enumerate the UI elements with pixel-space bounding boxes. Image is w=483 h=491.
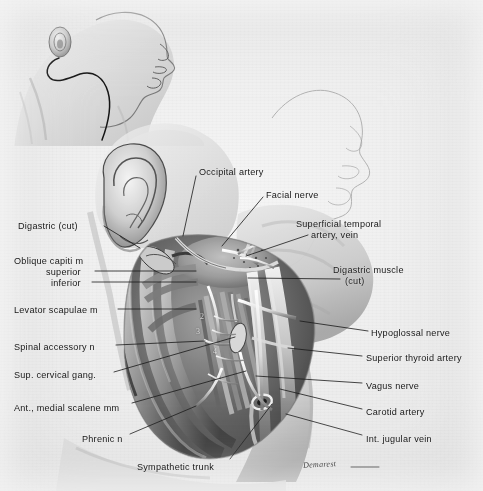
label-digastric-muscle: Digastric muscle: [333, 265, 404, 276]
label-superficial-temporal: Superficial temporal: [296, 219, 381, 230]
label-oblique-capiti-m: Oblique capiti m: [14, 256, 83, 267]
label-hypoglossal-nerve: Hypoglossal nerve: [371, 328, 450, 339]
label-phrenic-n: Phrenic n: [82, 434, 123, 445]
label-layer: Digastric (cut)Oblique capiti msuperiori…: [0, 0, 483, 491]
label-spinal-accessory-n: Spinal accessory n: [14, 342, 95, 353]
artist-signature: Demarest: [303, 459, 337, 470]
label-levator-scapulae-m: Levator scapulae m: [14, 305, 98, 316]
label-vagus-nerve: Vagus nerve: [366, 381, 419, 392]
label-oblique-capiti-superior: superior: [46, 267, 81, 278]
anatomical-plate: Digastric (cut)Oblique capiti msuperiori…: [0, 0, 483, 491]
label-carotid-artery: Carotid artery: [366, 407, 425, 418]
label-oblique-capiti-inferior: inferior: [51, 278, 81, 289]
label-superior-thyroid-artery: Superior thyroid artery: [366, 353, 462, 364]
label-facial-nerve: Facial nerve: [266, 190, 319, 201]
field-number-3: 3: [196, 327, 200, 336]
label-ant-medial-scalene-mm: Ant., medial scalene mm: [14, 403, 119, 414]
label-sup-cervical-gang: Sup. cervical gang.: [14, 370, 96, 381]
label-digastric-cut: Digastric (cut): [18, 221, 78, 232]
label-int-jugular-vein: Int. jugular vein: [366, 434, 432, 445]
field-number-4: 4: [213, 347, 217, 356]
label-digastric-muscle-2: (cut): [345, 276, 364, 287]
label-superficial-temporal-2: artery, vein: [311, 230, 358, 241]
label-sympathetic-trunk: Sympathetic trunk: [137, 462, 214, 473]
field-number-2: 2: [200, 312, 204, 321]
label-occipital-artery: Occipital artery: [199, 167, 264, 178]
